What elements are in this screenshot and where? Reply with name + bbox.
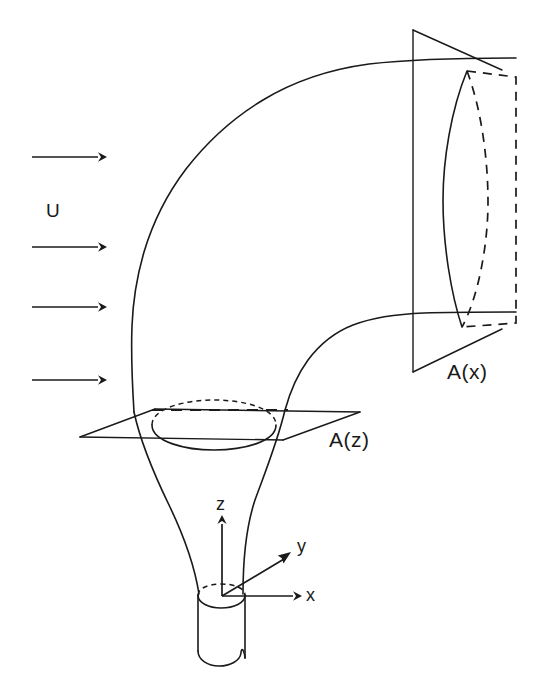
stack-broken-bottom bbox=[198, 650, 245, 666]
diagram-canvas bbox=[0, 0, 546, 689]
crossflow-arrow-2 bbox=[32, 242, 107, 252]
plume-section-ax-solid-arc bbox=[443, 71, 467, 327]
plane-ax-group bbox=[413, 30, 516, 372]
plume-stem-right-edge bbox=[243, 410, 285, 594]
axis-y bbox=[222, 552, 291, 596]
axis-z-label: z bbox=[216, 494, 225, 515]
plume-diagram-figure: U A(x) A(z) z y x bbox=[0, 0, 546, 689]
plume-section-ax-dashed-box bbox=[462, 71, 516, 327]
coordinate-axes-group bbox=[217, 515, 302, 601]
plume-section-az-dashed-arc bbox=[152, 400, 276, 425]
axis-x bbox=[222, 591, 302, 601]
stack-rim-front-solid bbox=[198, 595, 245, 608]
crossflow-arrow-3 bbox=[32, 302, 107, 312]
axis-y-label: y bbox=[297, 536, 306, 557]
crossflow-velocity-label: U bbox=[46, 200, 60, 222]
plane-az-group bbox=[80, 400, 360, 450]
plane-az-back-left-edge bbox=[80, 409, 155, 437]
crossflow-arrow-4 bbox=[32, 375, 107, 385]
plane-ax-label: A(x) bbox=[447, 360, 488, 384]
plume-outer-boundary bbox=[132, 58, 516, 412]
axis-x-label: x bbox=[306, 585, 315, 606]
plane-az-front-edge bbox=[80, 437, 283, 440]
plume-section-ax-dashed-arc bbox=[462, 71, 488, 327]
plane-ax-top-edge bbox=[413, 30, 502, 70]
plane-az-label: A(z) bbox=[329, 428, 370, 452]
plume-outline-group bbox=[132, 58, 516, 412]
crossflow-arrow-1 bbox=[32, 152, 107, 162]
plume-section-az-solid-arc bbox=[152, 425, 276, 450]
crossflow-arrow-group bbox=[32, 152, 107, 385]
